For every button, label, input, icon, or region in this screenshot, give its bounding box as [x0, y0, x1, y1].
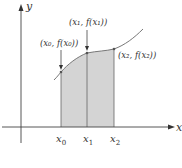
pointer-x1-arrow-icon	[85, 46, 89, 51]
point-x1	[86, 52, 89, 55]
point-x2	[113, 48, 116, 51]
y-axis-label: y	[25, 0, 33, 13]
y-axis-arrow-icon	[19, 4, 24, 11]
shaded-area	[61, 49, 114, 127]
x-axis-arrow-icon	[168, 125, 175, 130]
point-x0	[60, 71, 63, 74]
x-axis-label: x	[176, 121, 182, 134]
tick-x2: x2	[110, 133, 120, 147]
integral-diagram: y x x0 x1 x2 (x₀, f(x₀)) (x₁, f(x₁)) (x₂…	[0, 0, 182, 168]
tick-x1: x1	[83, 133, 93, 147]
point-label-x2: (x₂, f(x₂))	[118, 50, 156, 60]
pointer-x0-arrow-icon	[59, 65, 63, 70]
point-label-x1: (x₁, f(x₁))	[69, 17, 107, 27]
point-label-x0: (x₀, f(x₀))	[40, 38, 78, 48]
tick-x0: x0	[56, 133, 66, 147]
